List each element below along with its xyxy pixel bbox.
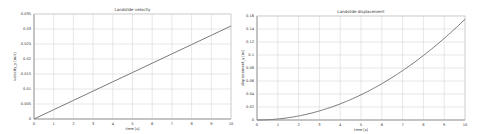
y-tick-label: 0.035: [21, 12, 31, 16]
y-tick-label: 0.14: [246, 27, 255, 31]
x-tick-label: 0: [256, 123, 259, 127]
y-tick-label: 0.03: [23, 27, 31, 31]
x-tick-label: 7: [171, 122, 173, 126]
x-axis-label: time [s]: [126, 127, 141, 131]
x-tick-label: 10: [229, 122, 234, 126]
y-tick-label: 0.02: [246, 105, 254, 109]
y-tick-label: 0.04: [246, 92, 255, 96]
x-tick-label: 8: [422, 123, 425, 127]
x-tick-label: 3: [318, 123, 320, 127]
x-tick-label: 6: [381, 123, 384, 127]
x-tick-label: 0: [33, 122, 36, 126]
y-tick-label: 0.06: [246, 79, 255, 83]
x-tick-label: 9: [443, 123, 446, 127]
y-tick-label: 0.01: [23, 87, 31, 91]
x-tick-label: 4: [112, 122, 115, 126]
y-tick-label: 0.005: [21, 102, 31, 106]
x-tick-label: 6: [151, 122, 154, 126]
x-tick-label: 3: [92, 122, 94, 126]
y-tick-label: 0.16: [246, 14, 255, 18]
y-axis-label: velocity_y [m/s]: [13, 52, 17, 81]
y-tick-label: 0: [29, 117, 32, 121]
y-tick-label: 0: [252, 118, 255, 122]
x-tick-label: 10: [463, 123, 468, 127]
y-tick-label: 0.1: [248, 53, 254, 57]
y-tick-label: 0.015: [21, 72, 31, 76]
velocity-chart: 01234567891000.0050.010.0150.020.0250.03…: [0, 0, 241, 134]
velocity-chart-title: Landslide velocity: [115, 7, 152, 12]
velocity-chart-svg: 01234567891000.0050.010.0150.020.0250.03…: [0, 0, 241, 134]
x-tick-label: 8: [190, 122, 193, 126]
y-axis-label: displacement_y [m]: [241, 50, 245, 86]
x-tick-label: 9: [210, 122, 213, 126]
x-tick-label: 4: [339, 123, 342, 127]
y-tick-label: 0.02: [23, 57, 31, 61]
x-tick-label: 5: [131, 122, 133, 126]
x-tick-label: 2: [72, 122, 74, 126]
y-tick-label: 0.12: [246, 40, 254, 44]
x-tick-label: 7: [401, 123, 403, 127]
x-tick-label: 5: [360, 123, 362, 127]
x-tick-label: 1: [53, 122, 55, 126]
displacement-chart-title: Landslide displacement: [337, 9, 385, 14]
x-tick-label: 2: [297, 123, 299, 127]
displacement-chart-svg: 01234567891000.020.040.060.080.10.120.14…: [241, 0, 482, 134]
y-tick-label: 0.08: [246, 66, 255, 70]
x-axis-label: time [s]: [354, 128, 369, 132]
x-tick-label: 1: [277, 123, 279, 127]
y-tick-label: 0.025: [21, 42, 31, 46]
displacement-chart: 01234567891000.020.040.060.080.10.120.14…: [241, 0, 482, 134]
